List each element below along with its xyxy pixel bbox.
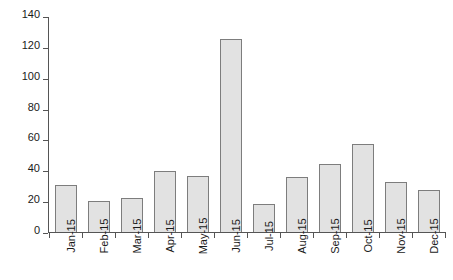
x-tick-label: Feb-15 (99, 219, 110, 254)
bar-chart: 140120100806040200 Jan-15Feb-15Mar-15Apr… (0, 0, 453, 280)
bar-slot (148, 17, 181, 233)
x-tick-label: Jul-15 (264, 221, 275, 251)
y-tick-mark (43, 140, 48, 141)
x-label-slot: Jan-15 (49, 233, 82, 280)
x-tick-label: Apr-15 (165, 219, 176, 252)
y-tick-label: 0 (34, 225, 40, 236)
bar-slot (412, 17, 445, 233)
x-tick-label: Oct-15 (363, 219, 374, 252)
x-tick-label: May-15 (198, 218, 209, 255)
x-label-slot: Jul-15 (247, 233, 280, 280)
y-tick-label: 140 (22, 9, 40, 20)
x-tick-label: Jan-15 (66, 219, 77, 253)
x-tick-label: Sep-15 (330, 218, 341, 253)
bar[interactable] (220, 39, 242, 233)
x-label-slot: Apr-15 (148, 233, 181, 280)
x-label-slot: Dec-15 (412, 233, 445, 280)
x-tick-label: Jun-15 (231, 219, 242, 253)
x-tick-mark (445, 233, 446, 238)
x-tick-label: Dec-15 (429, 218, 440, 253)
y-tick-label: 80 (28, 102, 40, 113)
y-tick-mark (43, 79, 48, 80)
x-label-slot: Feb-15 (82, 233, 115, 280)
bar-slot (247, 17, 280, 233)
x-axis-labels: Jan-15Feb-15Mar-15Apr-15May-15Jun-15Jul-… (49, 233, 445, 280)
y-tick-label: 40 (28, 163, 40, 174)
y-tick-mark (43, 110, 48, 111)
bar-slot (379, 17, 412, 233)
bar-slot (82, 17, 115, 233)
bar-slot (346, 17, 379, 233)
bar-slot (115, 17, 148, 233)
y-tick-mark (43, 17, 48, 18)
x-label-slot: May-15 (181, 233, 214, 280)
x-label-slot: Aug-15 (280, 233, 313, 280)
y-tick-mark (43, 171, 48, 172)
y-tick-label: 100 (22, 71, 40, 82)
x-tick-label: Mar-15 (132, 219, 143, 254)
bar-slot (280, 17, 313, 233)
x-label-slot: Nov-15 (379, 233, 412, 280)
x-label-slot: Sep-15 (313, 233, 346, 280)
y-tick-mark (43, 233, 48, 234)
x-tick-label: Aug-15 (297, 218, 308, 253)
bar-slot (214, 17, 247, 233)
y-tick-mark (43, 48, 48, 49)
x-label-slot: Jun-15 (214, 233, 247, 280)
x-label-slot: Oct-15 (346, 233, 379, 280)
bar-slot (49, 17, 82, 233)
bar-slot (181, 17, 214, 233)
x-label-slot: Mar-15 (115, 233, 148, 280)
bar-slot (313, 17, 346, 233)
plot-area (49, 17, 445, 233)
y-tick-label: 60 (28, 132, 40, 143)
x-tick-label: Nov-15 (396, 218, 407, 253)
y-tick-label: 120 (22, 40, 40, 51)
y-tick-label: 20 (28, 194, 40, 205)
y-tick-mark (43, 202, 48, 203)
bars-layer (49, 17, 445, 233)
